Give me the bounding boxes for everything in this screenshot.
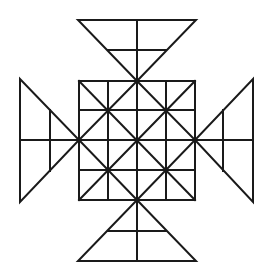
top-triangle <box>78 20 196 81</box>
center-square <box>79 81 195 200</box>
left-triangle <box>20 79 79 202</box>
geometric-figure <box>0 0 267 279</box>
right-triangle <box>195 79 253 202</box>
bottom-triangle <box>78 200 196 261</box>
